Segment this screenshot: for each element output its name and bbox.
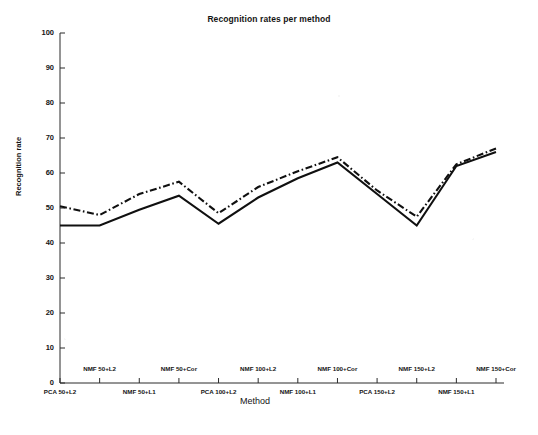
chart-series (60, 149, 496, 226)
x-tick-label: NMF 100+Cor (318, 365, 358, 372)
x-tick-label: PCA 50+L2 (44, 388, 76, 395)
y-tick-label: 60 (24, 168, 54, 177)
y-tick-label: 20 (24, 308, 54, 317)
chart-axes (60, 33, 504, 383)
y-tick-label: 10 (24, 343, 54, 352)
y-tick-label: 0 (24, 378, 54, 387)
x-tick-label: PCA 100+L2 (201, 388, 237, 395)
y-tick-label: 30 (24, 273, 54, 282)
series-line-solid (60, 152, 496, 226)
x-tick-label: NMF 100+L2 (240, 365, 276, 372)
y-tick-label: 40 (24, 238, 54, 247)
x-tick-label: NMF 150+L1 (438, 388, 474, 395)
x-tick-label: NMF 150+L2 (399, 365, 435, 372)
chart-figure: Recognition rates per method Recognition… (0, 0, 538, 435)
x-tick-label: NMF 50+L1 (123, 388, 156, 395)
x-tick-label: NMF 100+L1 (280, 388, 316, 395)
x-tick-label: NMF 50+L2 (83, 365, 116, 372)
x-tick-label: NMF 50+Cor (161, 365, 197, 372)
y-tick-label: 70 (24, 133, 54, 142)
y-tick-label: 100 (24, 28, 54, 37)
y-tick-label: 80 (24, 98, 54, 107)
x-tick-label: NMF 150+Cor (476, 365, 516, 372)
x-tick-label: PCA 150+L2 (359, 388, 395, 395)
y-tick-label: 90 (24, 63, 54, 72)
y-tick-label: 50 (24, 203, 54, 212)
